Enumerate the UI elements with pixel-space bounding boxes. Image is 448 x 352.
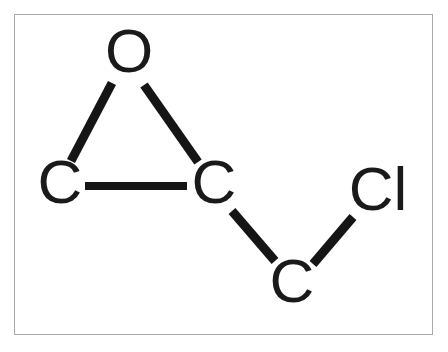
- diagram-canvas: O C C C Cl: [0, 0, 448, 352]
- atom-label-cl1: Cl: [349, 154, 408, 223]
- atom-label-c3: C: [270, 246, 315, 315]
- bond-c2-c3: [232, 211, 275, 261]
- atom-label-group: O C C C Cl: [38, 16, 408, 315]
- atom-label-o1: O: [105, 16, 153, 85]
- chemical-structure-svg: O C C C Cl: [0, 0, 448, 352]
- bond-o1-c2: [144, 85, 198, 162]
- atom-label-c1: C: [38, 147, 83, 216]
- atom-label-c2: C: [192, 147, 237, 216]
- bond-c3-cl1: [313, 217, 353, 264]
